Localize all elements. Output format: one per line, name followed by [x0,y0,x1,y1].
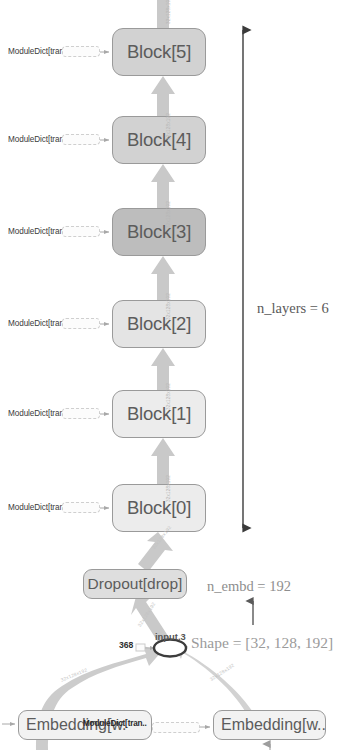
node-block-0[interactable]: Block[0] [112,484,206,532]
side-label-block-5: ModuleDict[tran.. [8,47,68,56]
node-block-4[interactable]: Block[4] [112,116,206,164]
dropout-to-block0-arrow [138,532,173,572]
annotation-shape: Shape = [32, 128, 192] [191,634,333,652]
node-label: Block[2] [127,313,191,335]
node-dropout[interactable]: Dropout[drop] [83,569,187,599]
node-block-2[interactable]: Block[2] [112,300,206,348]
tensor-ellipse-node [154,640,186,657]
tensor-node-stub [136,644,155,651]
edge-label-3-to-4: 32x128x192 [166,201,171,228]
side-label-block-4: ModuleDict[tran.. [8,135,68,144]
edge-label-2-to-3: 32x128x192 [166,293,171,320]
edge-label-0-to-1: 32x128x192 [166,475,171,502]
ghost-box-block-4 [62,134,100,145]
node-block-5[interactable]: Block[5] [112,28,206,76]
side-label-block-3: ModuleDict[tran.. [8,227,68,236]
annotation-n-embd: n_embd = 192 [207,578,291,595]
node-block-3[interactable]: Block[3] [112,208,206,256]
side-label-block-0: ModuleDict[tran.. [8,503,68,512]
annotation-n-layers: n_layers = 6 [257,300,329,317]
ghost-box-block-0 [62,502,100,513]
edge-label-4-to-5: 32x128x192 [166,113,171,140]
side-label-block-1: ModuleDict[tran.. [8,409,68,418]
edge-label-tensor-to-dropout: 32x128x192 [137,601,157,627]
node-label: Block[4] [127,129,191,151]
diagram-canvas: Block[5] Block[4] Block[3] Block[2] Bloc… [0,0,339,750]
node-label: Dropout[drop] [88,575,183,593]
tensor-id-left: 368 [119,640,133,650]
node-label: Block[1] [127,403,191,425]
edge-label-1-to-2: 32x128x192 [166,383,171,410]
ghost-box-embedding [152,722,200,733]
ghost-box-block-5 [62,46,100,57]
ghost-box-block-2 [62,318,100,329]
tensor-id-input3: input.3 [155,631,186,642]
ghost-box-block-3 [62,226,100,237]
node-embedding-right[interactable]: Embedding[w... [213,710,326,740]
node-label: Block[3] [127,221,191,243]
node-label: Block[5] [127,41,191,63]
side-arrows-into-blocks [96,52,109,508]
edge-label-top: 32x128x192 [166,0,171,24]
embedding-overlay-label: ModuleDict[tran.. [83,719,146,728]
edge-label-embedding-right: 32x128x192 [209,663,235,683]
block-chain-arrows [151,0,175,532]
side-label-block-2: ModuleDict[tran.. [8,319,68,328]
ghost-box-block-1 [62,408,100,419]
node-block-1[interactable]: Block[1] [112,390,206,438]
node-label: Embedding[w... [221,716,326,734]
node-label: Block[0] [127,497,191,519]
edge-label-embedding-left: 32x128x192 [60,667,88,682]
